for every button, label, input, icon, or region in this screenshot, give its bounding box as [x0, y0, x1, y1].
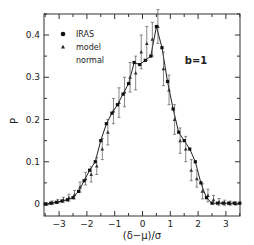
iras-marker: [171, 107, 174, 110]
iras-marker: [105, 122, 108, 125]
model-marker: [89, 172, 93, 176]
model-marker: [134, 71, 138, 75]
x-tick-label: 1: [167, 219, 173, 229]
iras-marker: [121, 93, 124, 96]
iras-marker: [149, 55, 152, 58]
iras-marker: [110, 112, 113, 115]
iras-marker: [238, 202, 241, 205]
iras-marker: [138, 63, 141, 66]
model-marker: [145, 41, 149, 45]
legend-entry-iras: IRAS: [76, 30, 94, 39]
iras-marker: [133, 61, 136, 64]
model-marker: [195, 177, 199, 181]
iras-marker: [83, 179, 86, 182]
iras-marker: [116, 103, 119, 106]
model-marker: [167, 88, 171, 92]
legend-iras-marker: [61, 32, 66, 37]
iras-marker: [66, 198, 69, 201]
iras-marker: [166, 80, 169, 83]
annotation-label: b=1: [185, 55, 208, 66]
y-tick-label: 0.1: [26, 157, 40, 167]
y-axis-label: P: [9, 118, 20, 124]
iras-marker: [160, 46, 163, 49]
iras-marker: [60, 199, 63, 202]
iras-marker: [227, 202, 230, 205]
y-tick-label: 0.2: [26, 115, 40, 125]
iras-marker: [188, 147, 191, 150]
iras-marker: [88, 169, 91, 172]
y-tick-label: 0.4: [26, 30, 41, 40]
distribution-chart: −3−2−1012300.10.20.30.4 IRASmodelnormal …: [0, 0, 254, 245]
iras-marker: [71, 196, 74, 199]
model-marker: [128, 75, 132, 79]
model-marker: [189, 168, 193, 172]
plot-frame: [44, 14, 240, 216]
model-marker: [101, 147, 105, 151]
iras-marker: [94, 160, 97, 163]
iras-marker: [183, 139, 186, 142]
model-marker: [184, 147, 188, 151]
x-tick-label: −1: [108, 219, 121, 229]
iras-marker: [144, 59, 147, 62]
y-tick-label: 0.3: [26, 72, 40, 82]
iras-marker: [49, 202, 52, 205]
iras-marker: [127, 82, 130, 85]
iras-marker: [99, 139, 102, 142]
iras-marker: [210, 202, 213, 205]
iras-marker: [233, 202, 236, 205]
plot-area: [44, 10, 242, 206]
legend-entry-model: model: [76, 43, 101, 52]
iras-marker: [77, 190, 80, 193]
iras-marker: [205, 196, 208, 199]
x-tick-label: 0: [140, 219, 146, 229]
model-marker: [212, 198, 216, 202]
iras-marker: [44, 202, 47, 205]
iras-marker: [55, 201, 58, 204]
iras-marker: [199, 181, 202, 184]
y-tick-label: 0: [34, 199, 40, 209]
x-tick-label: 2: [195, 219, 201, 229]
iras-marker: [194, 160, 197, 163]
legend-model-marker: [61, 45, 65, 49]
iras-marker: [155, 25, 158, 28]
iras-marker: [216, 202, 219, 205]
legend-entry-normal: normal: [76, 56, 104, 65]
model-marker: [139, 50, 143, 54]
model-marker: [106, 130, 110, 134]
x-axis-label: (δ−μ)/σ: [123, 230, 162, 241]
x-tick-label: 3: [223, 219, 229, 229]
iras-marker: [177, 131, 180, 134]
iras-marker: [222, 202, 225, 205]
x-tick-label: −2: [80, 219, 93, 229]
legend: IRASmodelnormal: [61, 30, 104, 65]
x-tick-label: −3: [52, 219, 65, 229]
model-marker: [178, 139, 182, 143]
model-marker: [95, 164, 99, 168]
